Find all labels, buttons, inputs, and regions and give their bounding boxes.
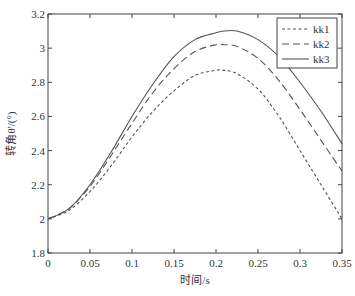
x-tick-label: 0.2: [209, 257, 223, 269]
x-tick-label: 0.05: [80, 257, 100, 269]
legend-label-kk2: kk2: [313, 38, 330, 50]
y-tick-label: 2.8: [31, 76, 45, 88]
y-tick-label: 2.2: [31, 179, 45, 191]
series-line-kk2: [48, 44, 342, 219]
x-tick-label: 0.25: [248, 257, 268, 269]
y-tick-label: 2.4: [31, 145, 45, 157]
y-tick-label: 3: [40, 42, 46, 54]
y-tick-label: 1.8: [31, 247, 45, 259]
x-tick-label: 0: [45, 257, 51, 269]
x-tick-label: 0.35: [332, 257, 352, 269]
line-chart: 00.050.10.150.20.250.30.351.822.22.42.62…: [0, 0, 355, 296]
legend-label-kk3: kk3: [313, 53, 330, 65]
y-tick-label: 2.6: [31, 110, 45, 122]
series-line-kk1: [48, 70, 342, 219]
y-tick-label: 2: [40, 213, 46, 225]
x-tick-label: 0.3: [293, 257, 307, 269]
y-tick-label: 3.2: [31, 8, 45, 20]
y-axis-label: 转角θ'/(°): [4, 111, 18, 155]
legend-label-kk1: kk1: [313, 23, 330, 35]
x-axis-label: 时间/s: [180, 274, 209, 286]
x-tick-label: 0.1: [125, 257, 139, 269]
x-tick-label: 0.15: [164, 257, 184, 269]
